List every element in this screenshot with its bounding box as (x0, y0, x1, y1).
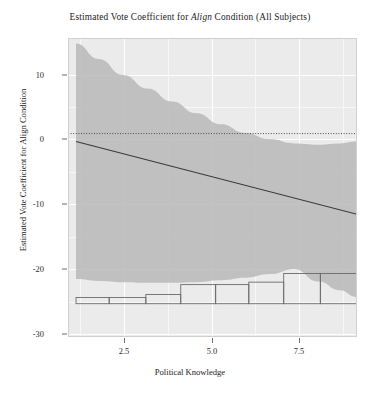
y-tick-label-neg10: -10 (4, 200, 44, 209)
x-tick-label-7-5: 7.5 (279, 347, 319, 356)
plot-panel (68, 38, 357, 337)
chart-title-prefix: Estimated Vote Coefficient for (70, 12, 191, 22)
y-tick-mark-neg30 (62, 334, 67, 335)
x-tick-mark-7-5 (299, 338, 300, 343)
y-tick-label-neg30: -30 (4, 330, 44, 339)
histogram-bar-1 (76, 298, 109, 304)
chart-figure: Estimated Vote Coefficient for Align Con… (0, 0, 380, 394)
histogram-bar-3 (146, 294, 181, 303)
confidence-band (76, 44, 357, 297)
y-tick-mark-neg20 (62, 269, 67, 270)
y-tick-mark-10 (62, 75, 67, 76)
x-tick-label-2-5: 2.5 (104, 347, 144, 356)
histogram-bar-2 (109, 298, 146, 304)
chart-title: Estimated Vote Coefficient for Align Con… (0, 12, 380, 22)
chart-title-suffix: Condition (All Subjects) (212, 12, 310, 22)
histogram-bar-5 (216, 285, 249, 304)
confidence-band-group (76, 44, 357, 297)
plot-graphics (68, 38, 357, 337)
x-tick-mark-5-0 (212, 338, 213, 343)
y-tick-label-neg20: -20 (4, 265, 44, 274)
histogram-bar-6 (249, 282, 284, 304)
x-axis-label: Political Knowledge (0, 367, 380, 377)
chart-title-emphasis: Align (191, 12, 212, 22)
y-tick-mark-neg10 (62, 204, 67, 205)
histogram-bar-4 (181, 285, 216, 304)
x-tick-label-5-0: 5.0 (192, 347, 232, 356)
y-axis-label: Estimated Vote Coefficient for Align Con… (18, 20, 32, 320)
y-tick-mark-0 (62, 139, 67, 140)
y-tick-label-0: 0 (4, 135, 44, 144)
y-tick-label-10: 10 (4, 71, 44, 80)
x-tick-mark-2-5 (124, 338, 125, 343)
